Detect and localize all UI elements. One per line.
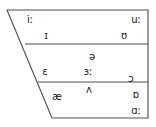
ipa-vowel-quadrilateral: iː uː ɪ ʊ ə ɛ ɜː ɔ ʌ æ ɒ ɑː — [0, 0, 156, 127]
vowel-turned-script-a: ɒ — [133, 90, 139, 100]
vowel-reversed-epsilon-long: ɜː — [84, 67, 93, 77]
trapezoid-outline — [7, 10, 148, 118]
vowel-ash: æ — [52, 92, 62, 102]
vowel-script-a-long: ɑː — [131, 106, 141, 116]
vowel-small-cap-i: ɪ — [44, 31, 48, 41]
vowel-u-long: uː — [131, 15, 141, 25]
vowel-upsilon: ʊ — [121, 31, 127, 41]
vowel-schwa: ə — [89, 52, 95, 62]
vowel-i-long: iː — [27, 15, 33, 25]
vowel-open-o: ɔ — [128, 74, 134, 84]
vowel-caret: ʌ — [86, 85, 92, 95]
vowel-epsilon: ɛ — [42, 67, 47, 77]
